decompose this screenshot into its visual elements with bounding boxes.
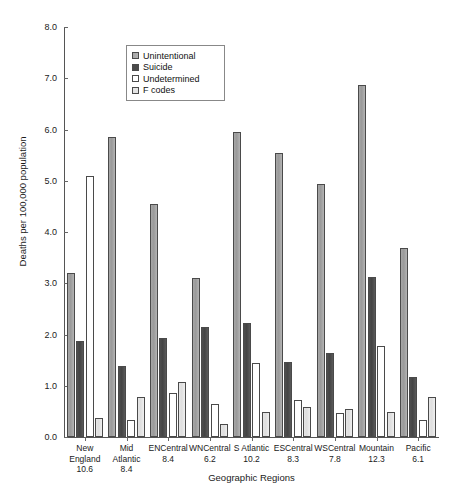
y-axis-title: Deaths per 100,000 population xyxy=(17,87,28,317)
bar xyxy=(303,407,311,437)
x-category-label-line: S Atlantic xyxy=(231,443,273,454)
bar xyxy=(428,397,436,437)
legend-swatch-icon xyxy=(132,75,139,82)
y-tick-label: 7.0 xyxy=(0,74,64,83)
bar xyxy=(233,132,241,437)
x-category-label-line: England xyxy=(64,454,106,465)
x-category-label-line: 12.3 xyxy=(356,454,398,465)
legend-swatch-icon xyxy=(132,64,139,71)
x-category-label: ENCentral8.4 xyxy=(147,443,189,464)
x-tick-mark xyxy=(293,437,294,441)
y-tick-text: 3.0 xyxy=(44,279,64,288)
y-tick-label: 0.0 xyxy=(0,433,64,442)
chart-legend: UnintentionalSuicideUndeterminedF codes xyxy=(126,45,225,101)
x-category-label-line: Mountain xyxy=(356,443,398,454)
legend-item-label: F codes xyxy=(143,85,175,95)
bar xyxy=(127,420,135,437)
bar xyxy=(317,184,325,437)
bar xyxy=(294,400,302,437)
bar xyxy=(387,412,395,437)
legend-item[interactable]: F codes xyxy=(132,85,219,97)
legend-item[interactable]: Unintentional xyxy=(132,50,219,62)
bar xyxy=(67,273,75,437)
bar xyxy=(377,346,385,437)
y-tick-label: 4.0 xyxy=(0,228,64,237)
plot-area xyxy=(64,27,439,437)
x-tick-mark xyxy=(85,437,86,441)
x-category-label-line: Mid xyxy=(106,443,148,454)
x-category-label: Mountain12.3 xyxy=(356,443,398,464)
x-category-label-line: 10.2 xyxy=(231,454,273,465)
y-tick-label: 8.0 xyxy=(0,23,64,32)
y-tick-label: 5.0 xyxy=(0,176,64,185)
bar-cluster xyxy=(233,27,270,437)
x-category-label-line: 6.1 xyxy=(397,454,439,465)
bar xyxy=(336,413,344,437)
x-category-label-line: ENCentral xyxy=(147,443,189,454)
bar xyxy=(76,341,84,437)
x-category-label: Pacific6.1 xyxy=(397,443,439,464)
legend-item-label: Undetermined xyxy=(143,74,200,84)
y-tick-label: 3.0 xyxy=(0,279,64,288)
y-tick-label: 6.0 xyxy=(0,125,64,134)
bar xyxy=(137,397,145,437)
x-category-label: S Atlantic10.2 xyxy=(231,443,273,464)
legend-item-label: Suicide xyxy=(143,62,173,72)
bar xyxy=(252,363,260,437)
legend-swatch-icon xyxy=(132,87,139,94)
x-category-label-line: 8.3 xyxy=(272,454,314,465)
bar xyxy=(108,137,116,437)
bar xyxy=(368,277,376,437)
bar xyxy=(400,248,408,437)
bar xyxy=(86,176,94,437)
x-tick-mark xyxy=(168,437,169,441)
bar xyxy=(284,362,292,437)
y-tick-text: 6.0 xyxy=(44,125,64,134)
y-tick-text: 0.0 xyxy=(44,433,64,442)
x-category-label-line: 10.6 xyxy=(64,464,106,475)
bar-cluster xyxy=(400,27,437,437)
x-category-label: ESCentral8.3 xyxy=(272,443,314,464)
y-tick-mark xyxy=(64,437,68,438)
bar xyxy=(326,353,334,437)
x-category-label: NewEngland10.6 xyxy=(64,443,106,475)
bar xyxy=(118,366,126,437)
bar-cluster xyxy=(317,27,354,437)
chart-figure: 8.07.06.05.04.03.02.01.00.0 Deaths per 1… xyxy=(0,0,449,495)
bar xyxy=(409,377,417,437)
bar xyxy=(201,327,209,437)
x-category-label: WSCentral7.8 xyxy=(314,443,356,464)
y-tick-text: 1.0 xyxy=(44,381,64,390)
x-category-label-line: 8.4 xyxy=(147,454,189,465)
x-category-label-line: WSCentral xyxy=(314,443,356,454)
x-tick-mark xyxy=(335,437,336,441)
x-category-label-line: Pacific xyxy=(397,443,439,454)
x-category-label-line: Atlantic 8.4 xyxy=(106,454,148,475)
x-category-label: MidAtlantic 8.4 xyxy=(106,443,148,475)
x-category-label-line: ESCentral xyxy=(272,443,314,454)
bar xyxy=(262,412,270,437)
y-tick-label: 2.0 xyxy=(0,330,64,339)
legend-item[interactable]: Undetermined xyxy=(132,73,219,85)
bar-cluster xyxy=(275,27,312,437)
bar xyxy=(95,418,103,437)
bar xyxy=(159,338,167,437)
bar xyxy=(220,424,228,437)
x-category-label-line: 6.2 xyxy=(189,454,231,465)
x-category-label-line: 7.8 xyxy=(314,454,356,465)
x-category-label-line: New xyxy=(64,443,106,454)
x-tick-mark xyxy=(252,437,253,441)
legend-item[interactable]: Suicide xyxy=(132,62,219,74)
x-category-label: WNCentral6.2 xyxy=(189,443,231,464)
y-tick-text: 4.0 xyxy=(44,228,64,237)
bar xyxy=(192,278,200,437)
x-tick-mark xyxy=(377,437,378,441)
x-category-label-line: WNCentral xyxy=(189,443,231,454)
y-tick-text: 2.0 xyxy=(44,330,64,339)
x-tick-mark xyxy=(418,437,419,441)
x-tick-mark xyxy=(210,437,211,441)
bar-cluster xyxy=(358,27,395,437)
bar xyxy=(275,153,283,437)
bar xyxy=(243,323,251,437)
y-tick-text: 5.0 xyxy=(44,176,64,185)
